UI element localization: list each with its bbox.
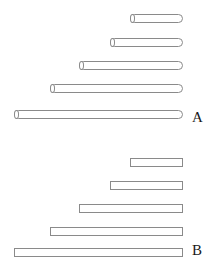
cylinder-left-cap-icon [110, 38, 115, 47]
cylinder-body [110, 38, 183, 47]
panel-label-b: B [192, 243, 202, 258]
cylinder-left-cap-icon [50, 84, 55, 93]
cylinder-body [50, 84, 183, 93]
cylinder-left-cap-icon [14, 110, 19, 119]
bar-b-4 [50, 227, 183, 236]
bar-a-4 [50, 84, 183, 93]
rectangle-body [110, 181, 183, 190]
rectangle-body [79, 204, 183, 213]
bar-b-3 [79, 204, 183, 213]
bar-a-5 [14, 110, 183, 119]
rectangle-body [50, 227, 183, 236]
cylinder-left-cap-icon [130, 14, 135, 23]
bar-a-3 [79, 61, 183, 70]
bar-b-5 [14, 248, 183, 257]
cylinder-body [14, 110, 183, 119]
panel-label-a: A [192, 110, 203, 125]
rectangle-body [130, 158, 183, 167]
bar-a-2 [110, 38, 183, 47]
rectangle-body [14, 248, 183, 257]
figure-canvas: A B [0, 0, 218, 272]
bar-a-1 [130, 14, 183, 23]
cylinder-body [79, 61, 183, 70]
bar-b-2 [110, 181, 183, 190]
bar-b-1 [130, 158, 183, 167]
cylinder-left-cap-icon [79, 61, 84, 70]
cylinder-body [130, 14, 183, 23]
